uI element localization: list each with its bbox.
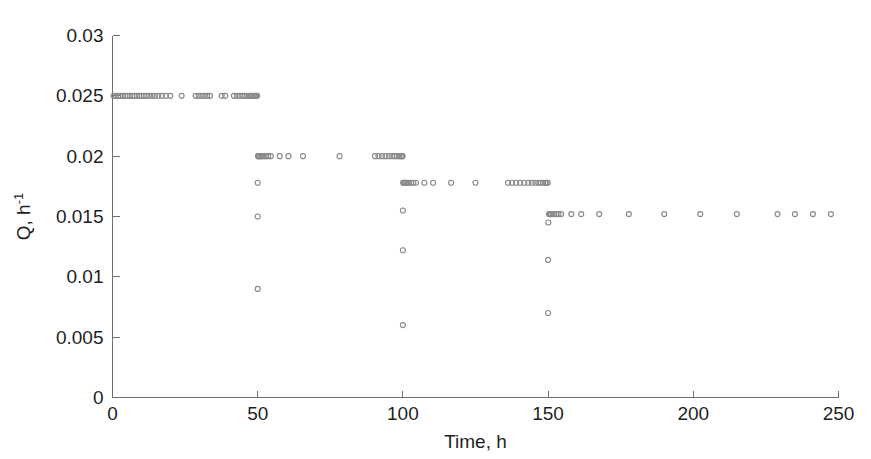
y-tick-label: 0.015 (56, 206, 104, 227)
data-point (422, 180, 427, 185)
data-point (546, 220, 551, 225)
data-point (810, 212, 815, 217)
tick-marks (113, 36, 839, 398)
data-points (111, 93, 833, 327)
data-point (473, 180, 478, 185)
data-point (286, 154, 291, 159)
data-point (255, 180, 260, 185)
data-point (431, 180, 436, 185)
data-point (579, 212, 584, 217)
data-point (400, 208, 405, 213)
data-point (775, 212, 780, 217)
data-point (179, 93, 184, 98)
x-tick-label: 100 (387, 403, 419, 424)
data-point (734, 212, 739, 217)
y-tick-label: 0.02 (67, 146, 104, 167)
y-tick-label: 0.01 (67, 266, 104, 287)
data-point (828, 212, 833, 217)
data-point (662, 212, 667, 217)
data-point (698, 212, 703, 217)
data-point (546, 257, 551, 262)
x-axis-title: Time, h (444, 431, 507, 452)
x-tick-label: 250 (823, 403, 855, 424)
data-point (255, 214, 260, 219)
x-tick-label: 50 (247, 403, 268, 424)
data-point (400, 323, 405, 328)
y-tick-labels: 00.0050.010.0150.020.0250.03 (56, 25, 104, 408)
y-tick-label: 0.025 (56, 85, 104, 106)
scatter-plot: 00.0050.010.0150.020.0250.03 05010015020… (0, 0, 871, 459)
data-point (449, 180, 454, 185)
figure-container: 00.0050.010.0150.020.0250.03 05010015020… (0, 0, 871, 459)
data-point (255, 286, 260, 291)
x-tick-labels: 050100150200250 (107, 403, 854, 424)
y-axis-title: Q, h-1 (11, 193, 34, 240)
data-point (223, 93, 228, 98)
y-tick-label: 0.005 (56, 327, 104, 348)
data-point (337, 154, 342, 159)
axes (113, 36, 839, 398)
data-point (546, 311, 551, 316)
x-tick-label: 150 (532, 403, 564, 424)
axis-spine (113, 36, 839, 398)
data-point (569, 212, 574, 217)
data-point (626, 212, 631, 217)
data-point (400, 248, 405, 253)
x-tick-label: 0 (107, 403, 118, 424)
x-tick-label: 200 (677, 403, 709, 424)
y-tick-label: 0 (93, 387, 104, 408)
data-point (277, 154, 282, 159)
data-point (792, 212, 797, 217)
y-tick-label: 0.03 (67, 25, 104, 46)
data-point (597, 212, 602, 217)
data-point (301, 154, 306, 159)
